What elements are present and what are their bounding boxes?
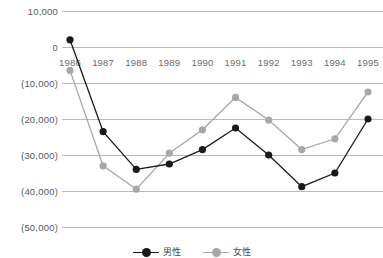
data-point-marker — [133, 166, 140, 173]
data-point-marker — [199, 146, 206, 153]
data-point-marker — [100, 128, 107, 135]
series-line — [70, 70, 368, 189]
legend-entry[interactable]: 男性 — [133, 247, 181, 258]
data-point-marker — [331, 135, 338, 142]
legend-dot-icon — [142, 248, 151, 257]
data-point-marker — [331, 169, 338, 176]
data-point-marker — [66, 67, 73, 74]
data-point-marker — [66, 36, 73, 43]
data-point-marker — [100, 162, 107, 169]
data-point-marker — [265, 116, 272, 123]
data-point-marker — [166, 150, 173, 157]
legend-label: 男性 — [163, 247, 181, 258]
data-point-marker — [364, 88, 371, 95]
data-point-marker — [364, 115, 371, 122]
line-chart: 10,0000(10,000)(20,000)(30,000)(40,000)(… — [0, 0, 383, 258]
data-point-marker — [232, 124, 239, 131]
legend-dot-icon — [212, 248, 221, 257]
data-point-marker — [298, 183, 305, 190]
legend-label: 女性 — [233, 247, 251, 258]
plot-area: 10,0000(10,000)(20,000)(30,000)(40,000)(… — [0, 0, 383, 258]
data-point-marker — [265, 151, 272, 158]
legend-marker-icon — [133, 248, 159, 258]
data-point-marker — [298, 146, 305, 153]
series-layer — [0, 0, 383, 258]
chart-legend: 男性女性 — [0, 247, 383, 258]
data-point-marker — [166, 160, 173, 167]
legend-entry[interactable]: 女性 — [203, 247, 251, 258]
data-point-marker — [133, 186, 140, 193]
legend-marker-icon — [203, 248, 229, 258]
data-point-marker — [199, 126, 206, 133]
data-point-marker — [232, 94, 239, 101]
